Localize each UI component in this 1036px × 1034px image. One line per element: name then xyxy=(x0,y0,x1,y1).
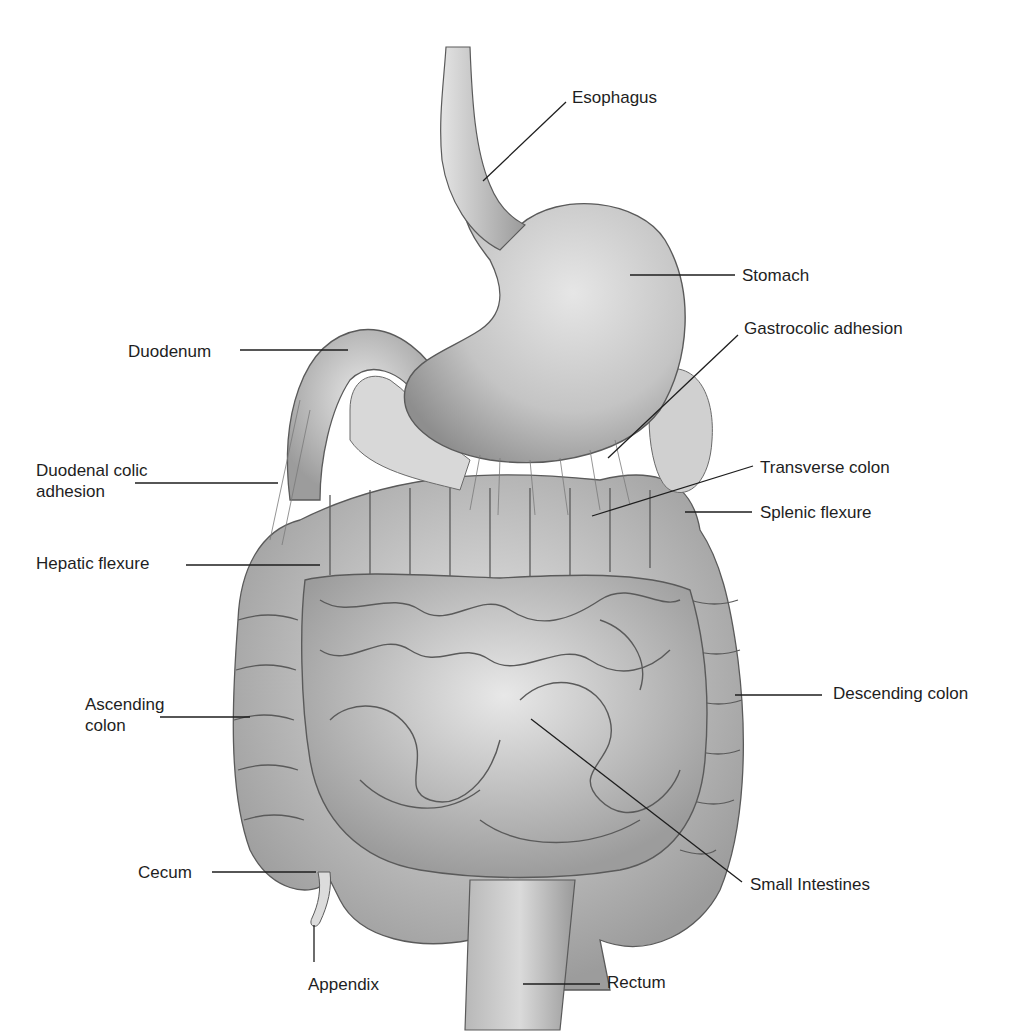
label-splenic-flexure: Splenic flexure xyxy=(760,502,872,523)
label-hepatic-flexure: Hepatic flexure xyxy=(36,553,149,574)
small-intestine xyxy=(302,574,707,877)
esophagus-shape xyxy=(441,47,525,250)
label-rectum: Rectum xyxy=(607,972,666,993)
label-ascending-colon: Ascending colon xyxy=(85,694,164,736)
label-esophagus: Esophagus xyxy=(572,87,657,108)
label-gastrocolic-adhesion: Gastrocolic adhesion xyxy=(744,318,903,339)
label-transverse-colon: Transverse colon xyxy=(760,457,890,478)
label-cecum: Cecum xyxy=(138,862,192,883)
label-descending-colon: Descending colon xyxy=(833,683,968,704)
label-stomach: Stomach xyxy=(742,265,809,286)
leader-line-esophagus xyxy=(483,102,566,181)
rectum-shape xyxy=(465,880,575,1030)
label-duodenum: Duodenum xyxy=(128,341,211,362)
label-small-intestines: Small Intestines xyxy=(750,874,870,895)
label-duodenal-colic-adhesion: Duodenal colic adhesion xyxy=(36,460,148,502)
label-appendix: Appendix xyxy=(308,974,379,995)
stomach-shape xyxy=(404,180,685,463)
